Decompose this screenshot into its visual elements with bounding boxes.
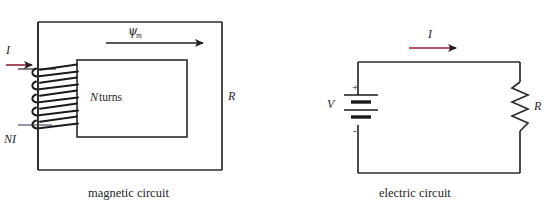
figure-container: ψ m I NI [0,0,557,212]
reluctance-label: R [227,89,236,103]
battery-symbol [344,95,378,117]
mmf-label: NI [3,132,17,146]
electric-circuit-group: I + - V R electric circuit [327,27,542,200]
turns-label-text: turns [99,91,123,103]
circuit-diagram-svg: ψ m I NI [0,0,557,212]
battery-plus-label: + [352,81,358,93]
flux-subscript: m [136,31,142,40]
voltage-label: V [327,97,336,111]
resistor-symbol [512,82,528,131]
turns-label-symbol: N [89,90,99,104]
magnetic-core-outer-rect [38,22,222,170]
current-label-electric: I [427,27,433,41]
battery-minus-label: - [353,124,357,136]
electric-circuit-caption: electric circuit [379,186,451,200]
magnetic-circuit-caption: magnetic circuit [88,186,169,200]
current-label-magnetic: I [5,43,11,57]
resistor-label: R [533,99,542,113]
electric-circuit-loop [358,62,520,173]
magnetic-circuit-group: ψ m I NI [3,22,236,200]
